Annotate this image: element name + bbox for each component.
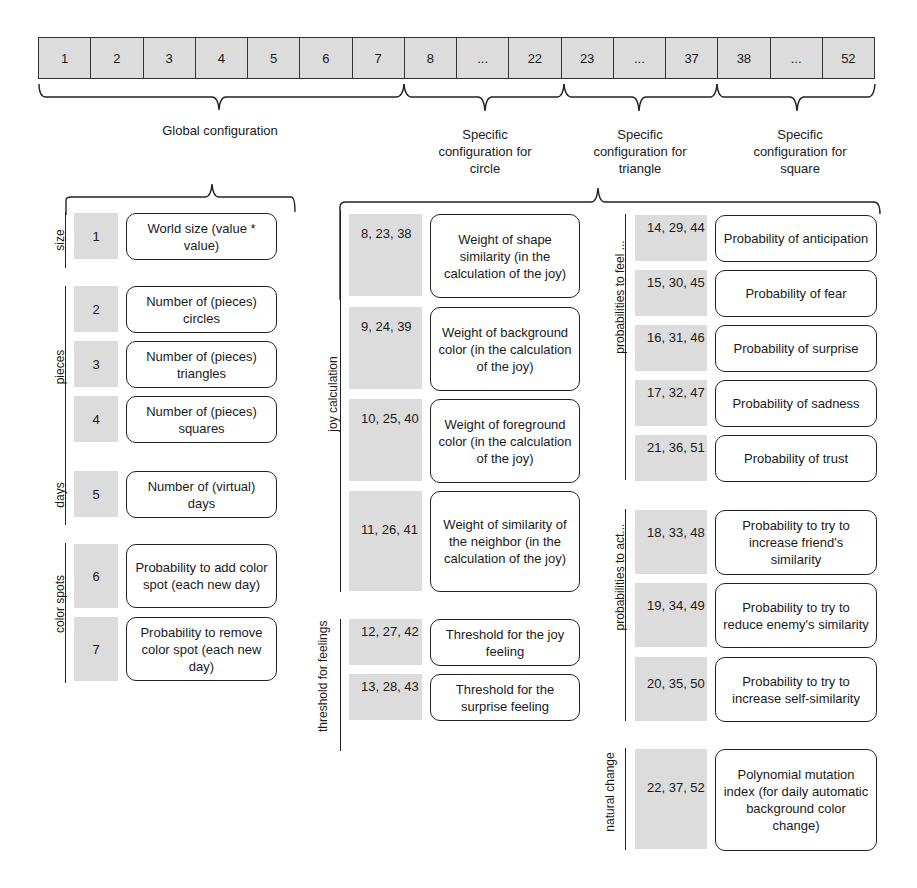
gene-index: 17, 32, 47 xyxy=(635,380,707,426)
param-box: Number of (pieces) triangles xyxy=(126,341,277,388)
brace-global xyxy=(39,84,404,110)
param-box: Threshold for the joy feeling xyxy=(430,619,580,666)
param-box: Weight of foreground color (in the calcu… xyxy=(430,399,580,483)
section-bracket xyxy=(625,748,626,850)
param-box: Threshold for the surprise feeling xyxy=(430,674,580,721)
brace-global-detail xyxy=(66,184,295,215)
gene-index: 5 xyxy=(74,471,118,517)
brace-circle xyxy=(404,84,564,111)
section-label-size: size xyxy=(53,210,67,270)
gene-index: 6 xyxy=(74,544,118,608)
gene-index: 14, 29, 44 xyxy=(635,215,707,261)
gene-index: 13, 28, 43 xyxy=(349,674,422,720)
gene-index: 16, 31, 46 xyxy=(635,325,707,371)
gene-index: 18, 33, 48 xyxy=(635,510,707,574)
gene-index: 21, 36, 51 xyxy=(635,435,707,481)
brace-triangle xyxy=(564,84,717,111)
gene-index: 12, 27, 42 xyxy=(349,619,422,665)
group-label-circle: Specific configuration for circle xyxy=(430,126,540,177)
param-box: Number of (pieces) squares xyxy=(126,396,277,443)
param-box: Probability to try to increase friend's … xyxy=(715,510,877,575)
param-box: Number of (virtual) days xyxy=(126,471,277,518)
section-bracket xyxy=(340,210,341,592)
param-box: Weight of background color (in the calcu… xyxy=(430,307,580,391)
param-box: Probability of surprise xyxy=(715,325,877,372)
section-label-probabilities-to-act: probabilities to act... xyxy=(613,502,627,652)
section-bracket xyxy=(340,619,341,751)
section-label-natural-change: natural change xyxy=(603,747,617,837)
section-label-days: days xyxy=(53,465,67,525)
brace-square xyxy=(717,84,875,111)
gene-index: 4 xyxy=(74,396,118,442)
param-box: Weight of similarity of the neighbor (in… xyxy=(430,491,580,592)
gene-index: 19, 34, 49 xyxy=(635,583,707,647)
param-box: Probability to try to increase self-simi… xyxy=(715,657,877,722)
param-box: Probability of sadness xyxy=(715,380,877,427)
gene-index: 8, 23, 38 xyxy=(349,214,422,296)
param-box: World size (value * value) xyxy=(126,213,277,260)
gene-index: 2 xyxy=(74,286,118,332)
gene-index: 7 xyxy=(74,617,118,681)
param-box: Probability to remove color spot (each n… xyxy=(126,617,277,681)
param-box: Number of (pieces) circles xyxy=(126,286,277,333)
param-box: Weight of shape similarity (in the calcu… xyxy=(430,214,580,298)
section-label-pieces: pieces xyxy=(53,327,67,407)
gene-index: 20, 35, 50 xyxy=(635,657,707,721)
group-label-triangle: Specific configuration for triangle xyxy=(585,126,695,177)
section-label-threshold-for-feelings: threshold for feelings xyxy=(316,622,330,732)
param-box: Probability to add color spot (each new … xyxy=(126,544,277,608)
param-box: Probability of trust xyxy=(715,435,877,482)
section-label-joy-calculation: joy calculation xyxy=(326,339,340,449)
gene-index: 22, 37, 52 xyxy=(635,749,707,849)
gene-index: 11, 26, 41 xyxy=(349,491,422,591)
section-label-color-spots: color spots xyxy=(53,554,67,654)
gene-index: 9, 24, 39 xyxy=(349,307,422,389)
gene-index: 1 xyxy=(74,213,118,259)
group-label-global: Global configuration xyxy=(130,122,310,139)
section-label-probabilities-to-feel: probabilities to feel ... xyxy=(613,222,627,372)
param-box: Probability of fear xyxy=(715,270,877,317)
param-box: Probability of anticipation xyxy=(715,215,877,262)
gene-index: 3 xyxy=(74,341,118,387)
param-box: Probability to try to reduce enemy's sim… xyxy=(715,583,877,648)
gene-index: 10, 25, 40 xyxy=(349,399,422,481)
group-label-square: Specific configuration for square xyxy=(745,126,855,177)
param-box: Polynomial mutation index (for daily aut… xyxy=(715,749,877,851)
gene-index: 15, 30, 45 xyxy=(635,270,707,316)
